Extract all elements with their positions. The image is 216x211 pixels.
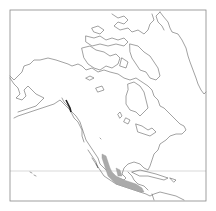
range-map: [0, 0, 216, 211]
map-svg: [0, 0, 216, 211]
